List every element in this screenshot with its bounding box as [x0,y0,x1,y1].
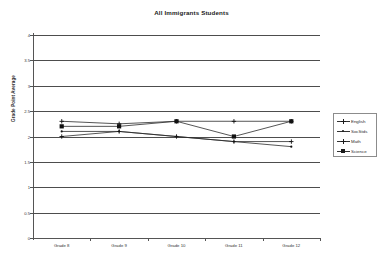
data-point [290,146,292,148]
data-point [289,139,293,143]
x-tick-mark [148,238,149,241]
x-tick-label: Grade 10 [168,243,186,248]
series-line [62,121,292,136]
x-tick-label: Grade 8 [54,243,70,248]
x-tick-mark [205,238,206,241]
data-point [60,134,64,138]
legend: EnglishSocStdsMathScience [333,113,377,157]
legend-marker-icon [336,127,351,136]
y-axis-tick-labels: 00.511.522.533.54 [0,35,30,238]
y-tick-mark [30,187,33,188]
y-tick-mark [30,111,33,112]
data-point [117,124,121,128]
legend-symbol-cross [342,120,345,123]
x-tick-mark [263,238,264,241]
y-tick-mark [30,238,33,239]
data-point [232,134,236,138]
legend-symbol-dot [342,130,344,132]
data-point [61,130,63,132]
y-tick-mark [30,162,33,163]
series-layer [33,35,320,238]
y-tick-mark [30,213,33,214]
x-tick-label: Grade 11 [225,243,243,248]
data-point [174,119,178,123]
legend-label: Math [351,137,361,146]
legend-label: Science [351,147,367,156]
data-point [233,140,235,142]
legend-label: SocStds [351,127,367,136]
x-axis-tick-labels: Grade 8Grade 9Grade 10Grade 11Grade 12 [33,243,321,255]
y-tick-mark [30,60,33,61]
data-point [175,135,177,137]
data-point [232,119,236,123]
data-point [60,124,64,128]
legend-item-math[interactable]: Math [336,136,374,146]
x-tick-mark [90,238,91,241]
data-point [289,119,293,123]
chart-title: All Immigrants Students [0,9,383,16]
data-point [60,119,64,123]
chart-container: All Immigrants Students Grade Point Aver… [0,0,383,263]
x-tick-label: Grade 9 [111,243,127,248]
legend-symbol-cross [342,140,345,143]
legend-symbol-square [341,149,345,153]
plot-area [33,35,320,238]
y-tick-mark [30,35,33,36]
legend-item-socstds[interactable]: SocStds [336,126,374,136]
y-tick-mark [30,86,33,87]
x-tick-mark [320,238,321,241]
y-tick-mark [30,137,33,138]
legend-marker-icon [336,137,351,146]
x-tick-label: Grade 12 [282,243,300,248]
legend-item-english[interactable]: English [336,116,374,126]
data-point [118,130,120,132]
legend-marker-icon [336,117,351,126]
x-axis-line [33,238,321,239]
legend-marker-icon [336,147,351,156]
legend-label: English [351,117,365,126]
legend-item-science[interactable]: Science [336,146,374,156]
